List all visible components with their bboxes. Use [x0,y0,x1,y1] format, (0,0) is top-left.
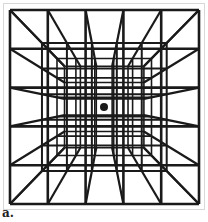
receding-line [10,10,65,66]
fixation-dot [100,103,108,111]
receding-line [144,148,199,204]
figure-caption: a. [2,206,14,220]
receding-line [144,10,199,66]
perspective-grid [0,0,208,222]
receding-line [10,148,65,204]
